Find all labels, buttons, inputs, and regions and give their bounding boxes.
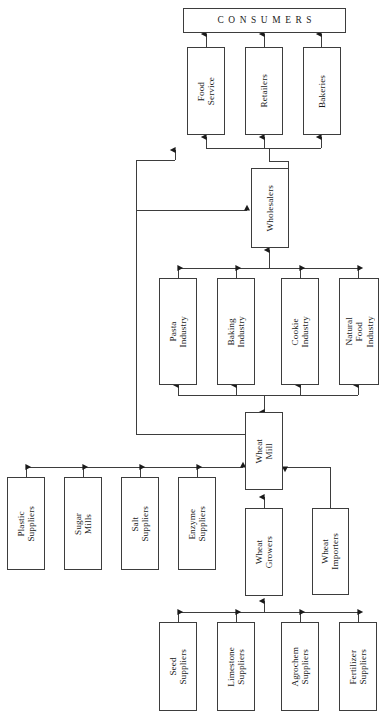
node-enzyme-suppliers[interactable]: Enzyme Suppliers (178, 477, 216, 570)
node-fertilizer-suppliers[interactable]: Fertilizer Suppliers (339, 622, 377, 711)
node-label: Wheat Mill (254, 439, 275, 463)
node-food-service[interactable]: Food Service (187, 47, 225, 135)
node-label: Food Service (196, 77, 217, 105)
node-label: Enzyme Suppliers (187, 506, 208, 542)
node-cookie-industry[interactable]: Cookie Industry (281, 278, 319, 385)
node-label: Natural Food Industry (344, 316, 375, 347)
node-label: Salt Suppliers (130, 506, 151, 542)
node-wheat-importers[interactable]: Wheat Importers (312, 508, 349, 595)
node-natural-food-industry[interactable]: Natural Food Industry (339, 278, 379, 385)
node-label: Fertilizer Suppliers (348, 649, 369, 685)
node-salt-suppliers[interactable]: Salt Suppliers (121, 477, 159, 570)
node-wholesalers[interactable]: Wholesalers (251, 168, 289, 248)
node-baking-industry[interactable]: Baking Industry (217, 278, 255, 385)
node-label: Wholesalers (265, 185, 275, 232)
node-label: Cookie Industry (290, 316, 311, 347)
node-label: Sugar Mills (73, 513, 94, 535)
node-label: Seed Suppliers (168, 649, 189, 685)
node-retailers[interactable]: Retailers (245, 47, 283, 135)
node-limestone-suppliers[interactable]: Limestone Suppliers (217, 622, 255, 711)
node-label: Limestone Suppliers (226, 647, 247, 687)
node-label: CONSUMERS (213, 15, 316, 26)
node-label: Wheat Importers (320, 533, 341, 570)
node-label: Retailers (259, 74, 269, 108)
node-seed-suppliers[interactable]: Seed Suppliers (159, 622, 197, 711)
node-wheat-growers[interactable]: Wheat Growers (245, 508, 283, 596)
node-label: Wheat Growers (254, 536, 275, 568)
node-label: Agrochem Suppliers (290, 647, 311, 687)
node-consumers[interactable]: CONSUMERS (183, 8, 346, 33)
node-label: Baking Industry (226, 316, 247, 347)
node-label: Pasta Industry (168, 316, 189, 347)
node-sugar-mills[interactable]: Sugar Mills (64, 477, 102, 570)
node-pasta-industry[interactable]: Pasta Industry (159, 278, 197, 385)
node-plastic-suppliers[interactable]: Plastic Suppliers (7, 477, 45, 570)
supply-chain-diagram: CONSUMERS Food Service Retailers Bakerie… (0, 0, 389, 719)
node-agrochem-suppliers[interactable]: Agrochem Suppliers (281, 622, 319, 711)
node-bakeries[interactable]: Bakeries (303, 47, 341, 135)
node-label: Plastic Suppliers (16, 506, 37, 542)
node-wheat-mill[interactable]: Wheat Mill (245, 412, 283, 490)
node-label: Bakeries (317, 75, 327, 108)
